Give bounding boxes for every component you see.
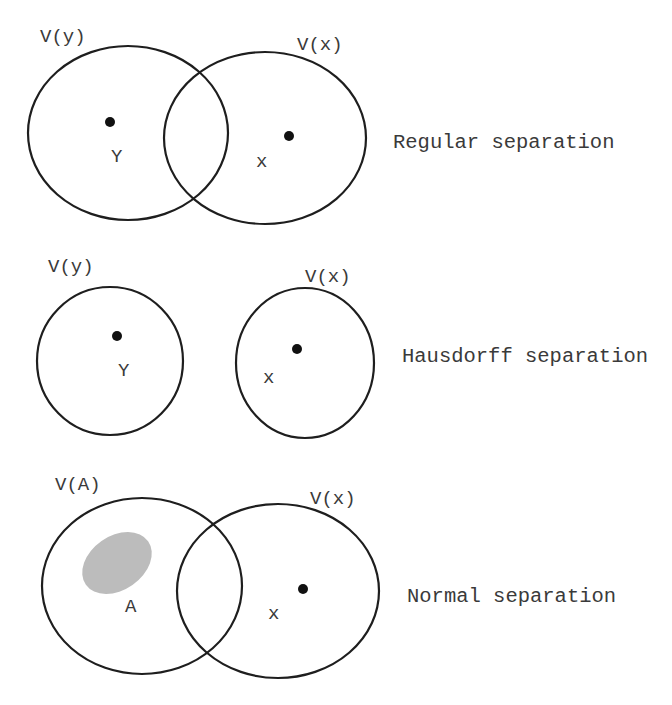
panel-hausdorff-separation: V(y) V(x) Y x Hausdorff separation bbox=[37, 256, 648, 438]
point-y-dot bbox=[112, 331, 122, 341]
point-y-label: Y bbox=[111, 146, 123, 168]
label-v-x: V(x) bbox=[297, 34, 343, 56]
point-y-dot bbox=[105, 117, 115, 127]
label-v-a: V(A) bbox=[55, 474, 101, 496]
neighborhood-v-x bbox=[164, 52, 366, 224]
neighborhood-v-x bbox=[236, 288, 374, 438]
point-x-dot bbox=[298, 584, 308, 594]
caption-normal-separation: Normal separation bbox=[407, 585, 616, 608]
point-y-label: Y bbox=[118, 360, 130, 382]
caption-regular-separation: Regular separation bbox=[393, 131, 614, 154]
neighborhood-v-x bbox=[177, 504, 379, 678]
label-v-y: V(y) bbox=[40, 26, 86, 48]
label-v-x: V(x) bbox=[310, 488, 356, 510]
point-x-label: x bbox=[263, 367, 274, 389]
panel-normal-separation: V(A) V(x) A x Normal separation bbox=[42, 474, 616, 678]
neighborhood-v-y bbox=[28, 46, 228, 220]
closed-set-a-label: A bbox=[125, 596, 137, 618]
neighborhood-v-y bbox=[37, 287, 183, 435]
point-x-dot bbox=[284, 131, 294, 141]
label-v-x: V(x) bbox=[305, 266, 351, 288]
point-x-label: x bbox=[256, 151, 267, 173]
separation-axioms-diagram: V(y) V(x) Y x Regular separation V(y) V(… bbox=[0, 0, 672, 705]
label-v-y: V(y) bbox=[48, 256, 94, 278]
panel-regular-separation: V(y) V(x) Y x Regular separation bbox=[28, 26, 614, 224]
point-x-label: x bbox=[268, 603, 279, 625]
caption-hausdorff-separation: Hausdorff separation bbox=[402, 345, 648, 368]
closed-set-a bbox=[70, 519, 163, 607]
point-x-dot bbox=[292, 344, 302, 354]
